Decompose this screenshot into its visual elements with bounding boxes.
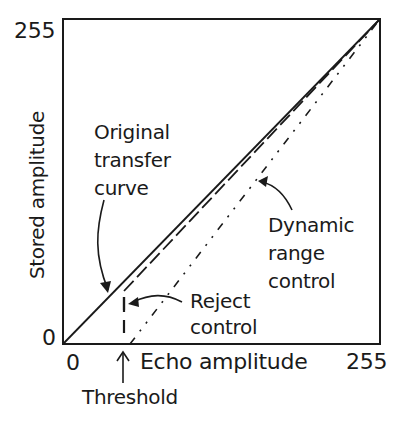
x-axis-label: Echo amplitude [140, 351, 307, 373]
y-tick-max: 255 [14, 20, 55, 42]
x-tick-min: 0 [66, 352, 80, 374]
arrowhead-icon [128, 297, 139, 307]
dynamic-range-line [130, 19, 380, 344]
threshold-label: Threshold [82, 386, 178, 408]
original-curve-arrow [98, 200, 108, 290]
reject-arrow [133, 296, 182, 302]
y-axis-label: Stored amplitude [25, 111, 49, 279]
arrowhead-icon [100, 281, 111, 293]
dynamic-range-arrow [262, 182, 292, 210]
arrowhead-icon [258, 176, 268, 187]
y-tick-min: 0 [42, 327, 56, 349]
x-tick-max: 255 [346, 351, 387, 373]
